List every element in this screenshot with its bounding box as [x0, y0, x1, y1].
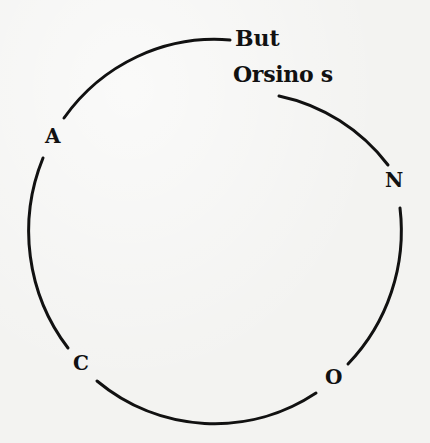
scanned-page: But Orsino s A N C O: [0, 0, 430, 443]
arc-but-to-a: [64, 39, 230, 118]
label-a: A: [45, 126, 61, 146]
arc-o-to-n: [348, 208, 401, 364]
label-n: N: [385, 170, 403, 190]
label-o: O: [325, 367, 342, 387]
label-orsinos: Orsino s: [233, 63, 333, 85]
circle-diagram: [0, 0, 430, 443]
arc-c-to-o: [97, 381, 316, 424]
label-but: But: [235, 27, 280, 49]
arc-a-to-c: [29, 158, 68, 348]
arc-n-to-orsinos: [279, 96, 388, 165]
label-c: C: [73, 353, 89, 373]
